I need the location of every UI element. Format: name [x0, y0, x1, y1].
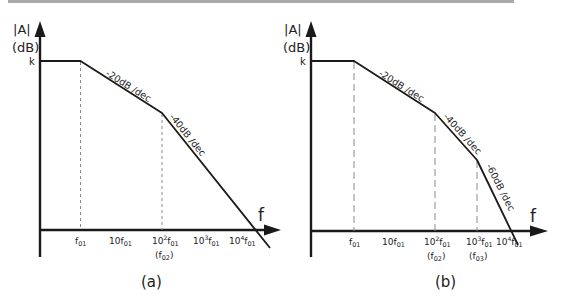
k-level-label: k: [29, 56, 35, 67]
magnitude-curve-a: [40, 61, 270, 248]
y-axis-label: |A|: [284, 22, 302, 37]
tick-10000f01: 104f01: [496, 235, 523, 249]
tick-1000f01: 103f01: [193, 234, 220, 248]
tick-10f01: 10f01: [382, 237, 405, 249]
tick-1000f01: 103f01: [466, 235, 493, 249]
tick-note-f03: (f03): [469, 251, 487, 263]
tick-100f01: 102f01: [424, 235, 451, 249]
x-axis-arrow-icon: [530, 226, 548, 237]
panel-a: |A| (dB) k -20dB /dec -40dB /dec f f01 1…: [12, 21, 281, 291]
y-axis-label: |A|: [13, 22, 31, 37]
tick-note-f02: (f02): [155, 250, 173, 262]
y-axis-unit: (dB): [283, 40, 310, 55]
tick-10f01: 10f01: [109, 236, 132, 248]
y-axis-unit: (dB): [12, 40, 39, 55]
x-axis-label: f: [530, 206, 537, 226]
caption-a: (a): [141, 273, 162, 291]
slope-label-20: -20dB /dec: [104, 67, 153, 104]
caption-b: (b): [435, 273, 456, 291]
slope-label-40: -40dB /dec: [167, 111, 208, 158]
slope-label-40: -40dB /dec: [442, 111, 485, 157]
tick-f01: f01: [75, 236, 86, 248]
tick-100f01: 102f01: [152, 234, 179, 248]
tick-10000f01: 104f01: [229, 234, 256, 248]
panel-b: |A| (dB) k -20dB /dec -40dB /dec -60dB /…: [283, 21, 548, 291]
x-axis-label: f: [258, 205, 265, 225]
slope-label-20: -20dB /dec: [377, 67, 426, 104]
bode-plot-figure: |A| (dB) k -20dB /dec -40dB /dec f f01 1…: [0, 0, 564, 304]
tick-note-f02: (f02): [427, 251, 445, 263]
tick-f01: f01: [349, 237, 360, 249]
y-axis-arrow-icon: [35, 21, 46, 37]
x-axis-arrow-icon: [264, 225, 281, 236]
k-level-label: k: [300, 56, 306, 67]
y-axis-arrow-icon: [306, 21, 317, 37]
